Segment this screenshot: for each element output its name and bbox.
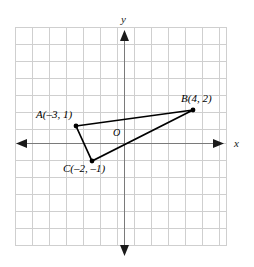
- coordinate-plane-figure: A(–3, 1) B(4, 2) C(–2, –1) O x y: [0, 0, 254, 267]
- y-axis-arrow-up: [120, 30, 129, 41]
- point-label-c: C(–2, –1): [63, 163, 105, 174]
- graph-canvas: [0, 0, 254, 267]
- y-axis-label: y: [121, 14, 126, 25]
- y-axis-arrow-down: [120, 245, 129, 256]
- x-axis-arrow-right: [213, 139, 224, 148]
- vertex-point-a: [74, 124, 79, 129]
- origin-label: O: [113, 128, 120, 138]
- point-label-a: A(–3, 1): [36, 109, 72, 120]
- point-label-b: B(4, 2): [181, 93, 212, 104]
- grid-lines-vertical: [16, 27, 227, 245]
- grid-lines-horizontal: [15, 28, 227, 246]
- vertex-point-b: [191, 108, 196, 113]
- x-axis-label: x: [234, 138, 239, 149]
- x-axis-arrow-left: [16, 139, 27, 148]
